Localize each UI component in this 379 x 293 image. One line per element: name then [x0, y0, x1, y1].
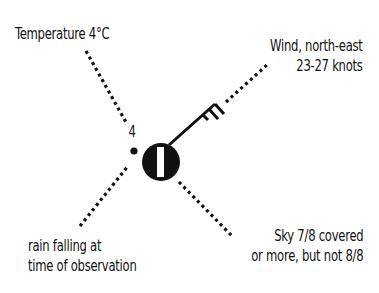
sky-label: Sky 7/8 covered or more, but not 8/8: [251, 226, 363, 266]
sky-label-line1: Sky 7/8 covered: [251, 226, 363, 246]
rain-leader-line: [80, 166, 128, 226]
temperature-label-text: Temperature 4°C: [15, 25, 109, 43]
wind-label-line1: Wind, north-east: [270, 36, 363, 56]
sky-leader-line: [179, 182, 232, 236]
cloud-cover-circle-icon: [142, 143, 180, 181]
temperature-label: Temperature 4°C: [15, 24, 109, 44]
rain-dot-icon: [130, 147, 137, 154]
rain-label-line1: rain falling at: [28, 236, 137, 256]
rain-label-line2: time of observation: [28, 256, 137, 276]
sky-label-line2: or more, but not 8/8: [251, 246, 363, 266]
station-model-diagram: 4 Temperature 4°C Wind, north-east 23-27…: [0, 0, 379, 293]
leader-lines: [80, 51, 268, 236]
wind-leader-line: [226, 64, 268, 102]
temperature-leader-line: [86, 51, 127, 124]
rain-label: rain falling at time of observation: [28, 236, 137, 276]
wind-label-line2: 23-27 knots: [270, 56, 363, 76]
wind-label: Wind, north-east 23-27 knots: [270, 36, 363, 76]
wind-barb-icon: [169, 104, 224, 145]
temperature-value: 4: [129, 124, 136, 140]
